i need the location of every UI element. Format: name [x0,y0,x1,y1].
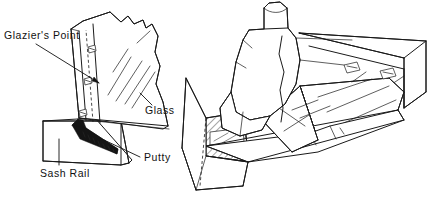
label-glass: Glass [145,104,175,116]
right-panel [182,2,426,190]
label-putty: Putty [144,151,171,163]
glazing-illustration: Glazier's Point Glass Putty Sash Rail [0,0,436,201]
label-sash-rail: Sash Rail [40,167,90,179]
label-glaziers-point: Glazier's Point [4,29,80,41]
glaziers-point-icon-group-right [344,62,396,79]
left-panel: Glazier's Point Glass Putty Sash Rail [4,12,175,179]
glazing-figure: Glazier's Point Glass Putty Sash Rail [0,0,436,201]
